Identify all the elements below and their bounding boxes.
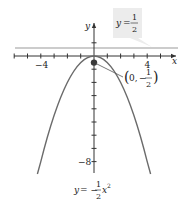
svg-text:2: 2: [146, 80, 151, 89]
svg-text:2: 2: [107, 182, 111, 189]
svg-text:y: y: [73, 185, 80, 195]
tick-label-neg4: −4: [35, 60, 49, 70]
svg-text:0,: 0,: [129, 73, 138, 83]
svg-text:1: 1: [96, 180, 101, 189]
svg-text:1: 1: [146, 68, 151, 77]
y-axis-label: y: [84, 21, 91, 31]
svg-text:): ): [153, 69, 158, 85]
svg-text:2: 2: [96, 192, 101, 201]
focus-point: [91, 59, 97, 65]
svg-text:y: y: [115, 18, 122, 28]
parabola-graph: x y −4 4 −8 y = 1 2 ( 0, − 1 2 ) y = − 1…: [0, 0, 188, 214]
x-axis-label: x: [172, 56, 177, 66]
equation-caption: y = − 1 2 x 2: [73, 180, 111, 201]
svg-text:1: 1: [132, 13, 137, 22]
focus-label: ( 0, − 1 2 ): [124, 68, 158, 89]
svg-text:2: 2: [132, 25, 137, 34]
tick-label-neg8: −8: [78, 157, 92, 167]
svg-text:=: =: [123, 18, 131, 28]
